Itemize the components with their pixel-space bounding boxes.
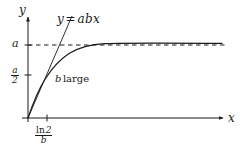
fraction-denominator: 2 — [11, 75, 19, 85]
figure-container: y x y=abx a a2 blarge ln2b — [0, 0, 245, 153]
tangent-line-equation-label: y=abx — [57, 13, 100, 25]
y-tick-label-a: a — [12, 38, 19, 49]
y-axis-label: y — [19, 4, 26, 16]
equation-rhs: abx — [77, 12, 100, 26]
fraction-denominator: b — [35, 135, 52, 145]
x-axis-label: x — [228, 112, 235, 124]
fraction-numerator: ln2 — [35, 126, 52, 135]
curve-annotation-b-large: blarge — [55, 74, 89, 84]
y-tick-label-a-over-2: a2 — [11, 66, 19, 86]
annotation-roman-text: large — [63, 73, 89, 84]
equation-operator: = — [64, 12, 77, 26]
fraction-ln2-over-b: ln2b — [35, 126, 52, 146]
annotation-italic-symbol: b — [55, 73, 63, 84]
ln-argument: 2 — [46, 125, 52, 135]
tangent-line — [28, 16, 72, 118]
fraction-a-over-2: a2 — [11, 66, 19, 86]
ln-function-name: ln — [36, 125, 46, 135]
x-tick-label-ln2-over-b: ln2b — [35, 126, 52, 146]
fraction-numerator: a — [11, 66, 19, 75]
